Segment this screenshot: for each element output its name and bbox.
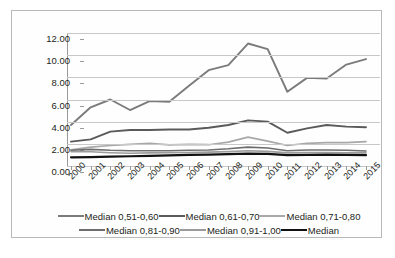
plot-area	[67, 33, 380, 165]
x-tick-mark	[71, 166, 72, 170]
x-axis-labels: 2000200120022003200420052006200720082009…	[12, 171, 395, 207]
legend-label: Median 0,71-0,80	[286, 211, 360, 222]
legend-swatch-icon	[159, 215, 185, 217]
legend-swatch-icon	[281, 229, 307, 231]
y-axis-labels: 12.0010.008.006.004.002.000.00	[28, 27, 70, 173]
x-tick-mark	[228, 166, 229, 170]
x-tick-mark	[307, 166, 308, 170]
x-tick-mark	[150, 166, 151, 170]
series-line-5	[71, 154, 366, 158]
series-line-3	[71, 147, 366, 151]
x-tick-mark	[91, 166, 92, 170]
legend-swatch-icon	[79, 229, 105, 231]
x-tick-mark	[189, 166, 190, 170]
x-tick-mark	[366, 166, 367, 170]
legend-item[interactable]: Median 0,51-0,60	[58, 211, 159, 222]
legend-row: Median 0,51-0,60Median 0,61-0,70Median 0…	[30, 209, 388, 223]
legend-item[interactable]: Median 0,61-0,70	[159, 211, 260, 222]
legend-item[interactable]: Median 0,91-1,00	[180, 225, 281, 236]
x-tick-mark	[248, 166, 249, 170]
chart-legend: Median 0,51-0,60Median 0,61-0,70Median 0…	[30, 209, 388, 237]
legend-swatch-icon	[180, 229, 206, 231]
legend-label: Median 0,91-1,00	[207, 225, 281, 236]
x-tick-mark	[327, 166, 328, 170]
series-line-1	[71, 120, 366, 141]
x-tick-mark	[169, 166, 170, 170]
chart-frame: 12.0010.008.006.004.002.000.00 200020012…	[11, 10, 382, 238]
legend-item[interactable]: Median 0,71-0,80	[259, 211, 360, 222]
legend-item[interactable]: Median 0,81-0,90	[79, 225, 180, 236]
legend-swatch-icon	[259, 215, 285, 217]
x-tick-mark	[110, 166, 111, 170]
legend-swatch-icon	[58, 215, 84, 217]
legend-row: Median 0,81-0,90Median 0,91-1,00Median	[30, 223, 388, 237]
gridline	[67, 77, 380, 78]
gridline	[67, 33, 380, 34]
x-tick-mark	[268, 166, 269, 170]
legend-label: Median 0,61-0,70	[186, 211, 260, 222]
gridline	[67, 122, 380, 123]
x-tick-mark	[287, 166, 288, 170]
chart-screenshot: 12.0010.008.006.004.002.000.00 200020012…	[0, 0, 395, 258]
x-tick-mark	[209, 166, 210, 170]
gridline	[67, 100, 380, 101]
x-tick-mark	[130, 166, 131, 170]
legend-label: Median 0,81-0,90	[106, 225, 180, 236]
gridline	[67, 144, 380, 145]
gridline	[67, 55, 380, 56]
legend-label: Median	[308, 225, 339, 236]
x-tick-mark	[346, 166, 347, 170]
legend-item[interactable]: Median	[281, 225, 339, 236]
legend-label: Median 0,51-0,60	[85, 211, 159, 222]
